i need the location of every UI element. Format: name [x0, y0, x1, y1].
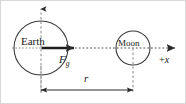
force-symbol: F [59, 53, 66, 65]
physics-diagram: Earth Moon Fg r +x [0, 0, 186, 104]
force-label-fg: Fg [59, 54, 69, 67]
image-border [1, 1, 186, 104]
moon-label: Moon [118, 39, 140, 48]
distance-label-r: r [84, 73, 88, 84]
diagram-canvas [0, 0, 186, 104]
force-subscript: g [66, 59, 70, 68]
earth-label: Earth [21, 36, 45, 47]
x-axis-label: +x [159, 55, 169, 65]
x-axis-label-symbol: x [165, 54, 169, 65]
